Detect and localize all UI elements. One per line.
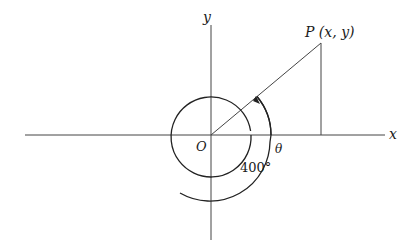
rotation-arc-outer [180,97,271,202]
theta-label: θ [275,142,283,156]
terminal-ray [211,43,321,135]
rotation-angle-label: 400° [240,160,271,175]
x-axis-label: x [389,126,397,142]
y-axis-label: y [202,9,212,25]
diagram-canvas: y x O P (x, y) θ 400° [0,0,413,245]
point-label: P (x, y) [304,24,355,40]
origin-label: O [196,139,207,154]
